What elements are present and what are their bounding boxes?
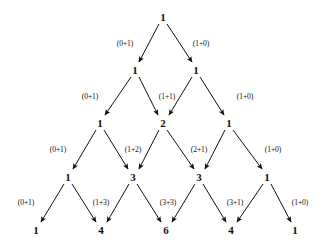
triangle-node: 1 [193, 65, 199, 76]
edge-arrow [233, 130, 262, 169]
edge-sum-label: (0+1) [82, 93, 98, 101]
edge-arrow [139, 24, 159, 62]
edge-arrow [105, 77, 131, 115]
edge-sum-label: (0+1) [50, 146, 66, 154]
edge-sum-label: (1+0) [193, 40, 209, 48]
triangle-node: 1 [132, 65, 138, 76]
edge-sum-label: (1+1) [159, 93, 175, 101]
triangle-node: 3 [130, 172, 136, 183]
edge-arrow [167, 24, 192, 62]
edge-arrow [41, 184, 64, 222]
triangle-node: 1 [264, 172, 270, 183]
triangle-node: 1 [65, 172, 71, 183]
triangle-node: 1 [226, 118, 232, 129]
edge-sum-label: (1+2) [125, 146, 141, 154]
triangle-node: 1 [292, 225, 298, 236]
triangle-node: 3 [196, 172, 202, 183]
triangle-node: 2 [160, 118, 166, 129]
edge-arrow [107, 184, 129, 222]
edge-arrow [73, 130, 96, 169]
edge-sum-label: (1+3) [93, 199, 109, 207]
edge-arrow [271, 184, 291, 222]
triangle-node: 4 [228, 225, 234, 236]
edge-sum-label: (0+1) [117, 40, 133, 48]
edge-arrow [139, 130, 159, 169]
edge-arrow [203, 184, 226, 222]
edge-sum-label: (3+1) [227, 199, 243, 207]
triangle-node: 1 [97, 118, 103, 129]
edge-sum-label: (2+1) [191, 146, 207, 154]
edge-arrow [205, 130, 225, 169]
edge-sum-label: (3+3) [160, 199, 176, 207]
edge-arrow [137, 184, 161, 222]
edge-sum-label: (1+0) [292, 199, 308, 207]
triangle-node: 6 [163, 225, 169, 236]
edge-arrow [139, 77, 158, 115]
edge-sum-label: (0+1) [18, 199, 34, 207]
triangle-node: 1 [160, 12, 166, 23]
triangle-node: 1 [33, 225, 39, 236]
edge-arrow [200, 77, 224, 115]
edge-sum-label: (1+0) [265, 146, 281, 154]
pascals-triangle-diagram: 111121133114641 (0+1)(1+0)(0+1)(1+1)(1+0… [0, 0, 322, 247]
edge-sum-label: (1+0) [237, 93, 253, 101]
triangle-node: 4 [98, 225, 104, 236]
